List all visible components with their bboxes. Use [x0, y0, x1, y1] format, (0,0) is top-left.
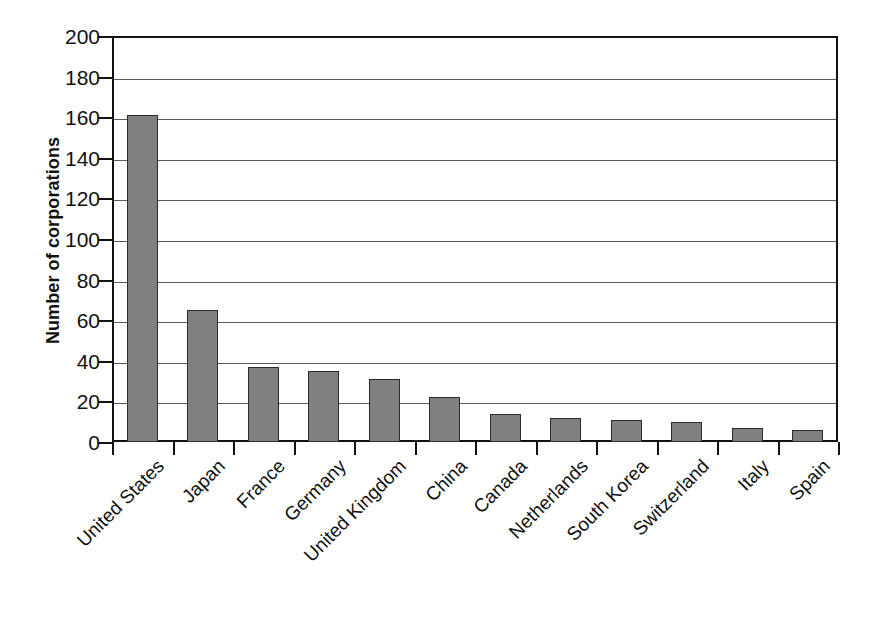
x-axis-tick-mark	[415, 442, 417, 455]
x-axis-tick-label-text: Spain	[785, 456, 833, 504]
x-axis-tick-mark	[838, 442, 840, 455]
y-axis-tick-label: 180	[30, 66, 100, 87]
x-axis-tick-mark	[536, 442, 538, 455]
x-axis-tick-mark	[173, 442, 175, 455]
bar	[792, 430, 823, 442]
x-axis-tick-marks	[112, 442, 838, 456]
y-axis-tick-label: 80	[30, 269, 100, 290]
x-axis-tick-label: China	[422, 456, 471, 505]
x-axis-tick-mark	[657, 442, 659, 455]
x-axis-tick-label: France	[233, 456, 288, 511]
x-axis-tick-label-text: China	[422, 456, 471, 505]
x-axis-tick-labels: United StatesJapanFranceGermanyUnited Ki…	[112, 456, 838, 596]
bar	[308, 371, 339, 442]
x-axis-tick-mark	[717, 442, 719, 455]
y-axis-tick-label: 140	[30, 147, 100, 168]
y-axis-tick-label: 120	[30, 188, 100, 209]
x-axis-tick-label-text: United States	[74, 456, 168, 550]
x-axis-tick-mark	[778, 442, 780, 455]
x-axis-tick-label: United States	[74, 456, 168, 550]
y-axis-tick-label: 160	[30, 107, 100, 128]
bar	[550, 418, 581, 442]
x-axis-tick-label: Japan	[178, 456, 228, 506]
bar	[671, 422, 702, 442]
x-axis-tick-label: Spain	[785, 456, 833, 504]
bar	[429, 397, 460, 442]
bar	[732, 428, 763, 442]
y-axis-tick-label: 0	[30, 432, 100, 453]
y-axis-tick-label: 60	[30, 310, 100, 331]
x-axis-tick-label-text: Japan	[178, 456, 228, 506]
x-axis-tick-label-text: France	[233, 456, 288, 511]
x-axis-tick-mark	[354, 442, 356, 455]
x-axis-tick-label: Canada	[470, 456, 531, 517]
y-axis-tick-label: 20	[30, 391, 100, 412]
y-axis-tick-label: 100	[30, 229, 100, 250]
x-axis-tick-mark	[112, 442, 114, 455]
bar	[187, 310, 218, 442]
x-axis-tick-mark	[475, 442, 477, 455]
x-axis-tick-label: Italy	[735, 456, 773, 494]
x-axis-tick-label-text: Canada	[470, 456, 531, 517]
bar	[248, 367, 279, 442]
x-axis-tick-mark	[233, 442, 235, 455]
x-axis-tick-mark	[294, 442, 296, 455]
bar	[490, 414, 521, 442]
y-axis-tick-label: 40	[30, 350, 100, 371]
bar-chart: Number of corporations 02040608010012014…	[0, 0, 875, 624]
x-axis-tick-label-text: Italy	[735, 456, 773, 494]
bar	[369, 379, 400, 442]
bars-group	[112, 36, 838, 442]
bar	[611, 420, 642, 442]
x-axis-tick-mark	[596, 442, 598, 455]
y-axis-tick-label: 200	[30, 26, 100, 47]
bar	[127, 115, 158, 442]
